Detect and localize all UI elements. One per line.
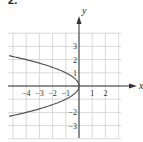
- x-tick-label: 2: [103, 89, 107, 98]
- margin-mask: [0, 0, 8, 142]
- y-tick-label: 2: [73, 56, 77, 65]
- y-tick-label: 3: [73, 42, 77, 51]
- y-axis-label: y: [81, 5, 87, 16]
- x-tick-label: −1: [62, 89, 71, 98]
- x-axis-label: x: [138, 80, 143, 91]
- graph: xy−4−3−2−112321−2−3: [0, 0, 143, 142]
- y-tick-label: −2: [68, 108, 77, 117]
- x-tick-label: −2: [48, 89, 57, 98]
- x-tick-label: −4: [22, 89, 31, 98]
- x-tick-label: 1: [90, 89, 94, 98]
- y-axis-arrow-icon: [77, 16, 82, 24]
- x-tick-label: −3: [35, 89, 44, 98]
- x-axis-arrow-icon: [129, 84, 137, 89]
- y-tick-label: 1: [73, 69, 77, 78]
- y-tick-label: −3: [68, 122, 77, 131]
